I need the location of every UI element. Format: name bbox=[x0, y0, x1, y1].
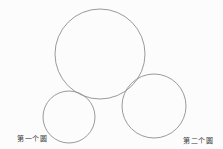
big-circle bbox=[55, 9, 145, 99]
second-circle-label: 第二个圆 bbox=[183, 137, 213, 146]
first-circle-label: 第一个圆 bbox=[17, 135, 47, 144]
circles-diagram: 第一个圆 第二个圆 bbox=[0, 0, 223, 149]
first-circle bbox=[43, 91, 95, 143]
diagram-canvas bbox=[0, 0, 223, 149]
second-circle bbox=[122, 74, 186, 138]
